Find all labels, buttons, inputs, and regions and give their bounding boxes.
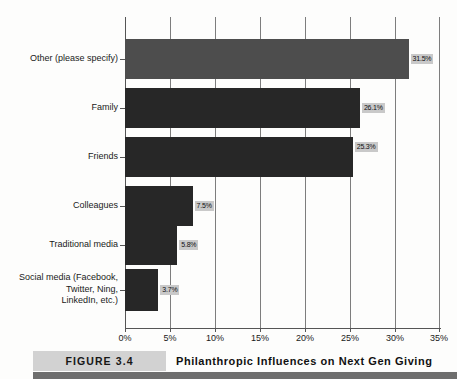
data-label-traditional-media: 5.8% <box>179 240 198 250</box>
caption-rule <box>33 372 457 379</box>
data-label-colleagues: 7.5% <box>195 201 214 211</box>
ytick-family <box>120 108 125 109</box>
xtick-label-25: 25% <box>330 333 370 343</box>
figure-caption: FIGURE 3.4 Philanthropic Influences on N… <box>0 351 457 371</box>
ytick-colleagues <box>120 206 125 207</box>
bar-colleagues[interactable] <box>125 186 193 226</box>
xtick-25 <box>350 328 351 332</box>
gridline-35 <box>439 17 440 328</box>
bar-other[interactable] <box>125 39 409 79</box>
xtick-label-0: 0% <box>105 333 145 343</box>
x-axis-line <box>125 328 441 329</box>
data-label-family: 26.1% <box>362 103 385 113</box>
xtick-20 <box>305 328 306 332</box>
bar-social-media[interactable] <box>125 269 158 311</box>
bar-family[interactable] <box>125 88 360 128</box>
xtick-0 <box>125 328 126 332</box>
xtick-label-35: 35% <box>419 333 457 343</box>
bar-chart: 31.5% 26.1% 25.3% 7.5% 5.8% 3.7% 0% 5% 1… <box>0 0 457 348</box>
xtick-label-20: 20% <box>285 333 325 343</box>
category-label-traditional-media: Traditional media <box>0 239 118 251</box>
xtick-30 <box>395 328 396 332</box>
data-label-social-media: 3.7% <box>160 285 179 295</box>
figure-title: Philanthropic Influences on Next Gen Giv… <box>176 351 433 371</box>
ytick-other <box>120 59 125 60</box>
xtick-15 <box>260 328 261 332</box>
xtick-label-30: 30% <box>375 333 415 343</box>
ytick-friends <box>120 157 125 158</box>
category-label-social-media: Social media (Facebook, Twitter, Ning, L… <box>0 272 118 307</box>
category-label-colleagues: Colleagues <box>0 200 118 212</box>
xtick-35 <box>439 328 440 332</box>
ytick-traditional-media <box>120 245 125 246</box>
xtick-5 <box>170 328 171 332</box>
xtick-label-10: 10% <box>195 333 235 343</box>
xtick-label-15: 15% <box>240 333 280 343</box>
xtick-10 <box>215 328 216 332</box>
figure-container: 31.5% 26.1% 25.3% 7.5% 5.8% 3.7% 0% 5% 1… <box>0 0 457 379</box>
data-label-other: 31.5% <box>411 54 434 64</box>
bar-friends[interactable] <box>125 137 353 177</box>
data-label-friends: 25.3% <box>355 142 378 152</box>
xtick-label-5: 5% <box>150 333 190 343</box>
ytick-social-media <box>120 290 125 291</box>
bar-traditional-media[interactable] <box>125 225 177 265</box>
figure-tag-label: FIGURE 3.4 <box>33 351 166 371</box>
plot-area: 31.5% 26.1% 25.3% 7.5% 5.8% 3.7% <box>125 17 440 328</box>
category-label-friends: Friends <box>0 151 118 163</box>
category-label-other: Other (please specify) <box>0 53 118 65</box>
category-label-family: Family <box>0 102 118 114</box>
